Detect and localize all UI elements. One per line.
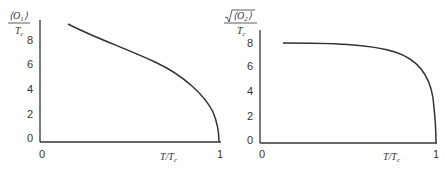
series-o2-line [283, 43, 436, 143]
y-tick-2: 2 [247, 110, 253, 122]
svg-text:⟨O2⟩: ⟨O2⟩ [233, 10, 252, 23]
x-tick-0: 0 [259, 148, 265, 160]
chart-o1: 8 6 4 2 0 0 1 T/Tc ⟨O1⟩ Tc [8, 10, 223, 164]
y-axis-label: ⟨O2⟩ Tc [224, 10, 257, 38]
y-tick-0: 0 [247, 134, 253, 146]
y-tick-8: 8 [27, 34, 33, 46]
y-tick-6: 6 [27, 58, 33, 70]
x-tick-1: 1 [217, 148, 223, 160]
svg-text:Tc: Tc [237, 25, 247, 38]
y-tick-4: 4 [247, 85, 253, 97]
series-o1-line [68, 24, 219, 142]
y-tick-2: 2 [27, 108, 33, 120]
y-tick-4: 4 [27, 83, 33, 95]
x-tick-0: 0 [39, 148, 45, 160]
svg-text:⟨O1⟩: ⟨O1⟩ [9, 10, 28, 23]
x-tick-1: 1 [433, 148, 439, 160]
y-tick-0: 0 [27, 132, 33, 144]
svg-text:Tc: Tc [15, 25, 25, 38]
svg-text:T/Tc: T/Tc [160, 151, 178, 164]
x-axis-label: T/Tc [383, 151, 401, 164]
figure: 8 6 4 2 0 0 1 T/Tc ⟨O1⟩ Tc 8 6 4 2 0 0 1… [0, 0, 445, 169]
y-tick-6: 6 [247, 60, 253, 72]
y-tick-8: 8 [247, 37, 253, 49]
x-axis-label: T/Tc [160, 151, 178, 164]
svg-text:T/Tc: T/Tc [383, 151, 401, 164]
chart-o2: 8 6 4 2 0 0 1 T/Tc ⟨O2⟩ Tc [224, 10, 439, 164]
